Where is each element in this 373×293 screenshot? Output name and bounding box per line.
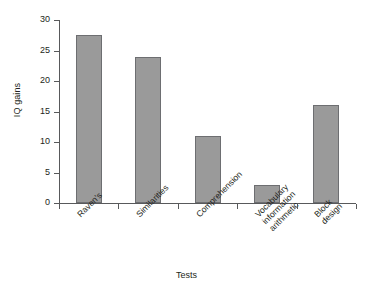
bar [135, 57, 161, 203]
bar-chart-figure: IQ gains 051015202530 Raven'sSimilaritie… [0, 0, 373, 293]
x-axis-title: Tests [0, 270, 373, 280]
x-tick-mark [297, 204, 298, 209]
y-tick-mark [54, 142, 59, 143]
x-tick-mark [118, 204, 119, 209]
y-tick-label: 20 [28, 76, 50, 85]
bar [76, 35, 102, 203]
x-tick-mark [178, 204, 179, 209]
y-tick-mark [54, 112, 59, 113]
y-tick-label: 5 [28, 168, 50, 177]
y-tick-mark [54, 81, 59, 82]
y-tick-mark [54, 20, 59, 21]
y-tick-label: 25 [28, 46, 50, 55]
y-tick-label: 15 [28, 107, 50, 116]
y-tick-mark [54, 173, 59, 174]
x-tick-mark [356, 204, 357, 209]
y-tick-mark [54, 51, 59, 52]
x-tick-mark [59, 204, 60, 209]
x-tick-mark [237, 204, 238, 209]
y-tick-label: 10 [28, 137, 50, 146]
bar [313, 105, 339, 203]
y-tick-label: 30 [28, 15, 50, 24]
y-axis-title: IQ gains [12, 70, 22, 130]
y-axis-line [59, 20, 60, 203]
y-tick-label: 0 [28, 198, 50, 207]
